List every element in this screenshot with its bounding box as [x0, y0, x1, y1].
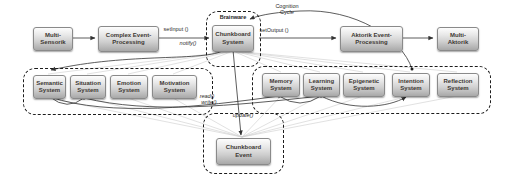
node-emotion-system: Emotion System — [110, 75, 148, 99]
node-situation-system: Situation System — [70, 75, 106, 99]
edge-label-write: write() — [201, 99, 216, 105]
edge-label-notify: notify() — [180, 40, 197, 46]
node-complex-event-processing: Complex Event- Processing — [98, 26, 159, 52]
node-semantic-system: Semantic System — [33, 75, 66, 99]
diagram-canvas: Brainware Multi- Sensorik Complex Event-… — [0, 0, 514, 184]
node-reflection-system: Reflection System — [437, 73, 479, 97]
node-multi-aktorik: Multi- Aktorik — [437, 27, 479, 51]
node-chunkboard-event: Chunkboard Event — [216, 138, 271, 165]
edge-notify — [51, 50, 224, 70]
node-aktorik-event-processing: Aktorik Event- Processing — [340, 26, 403, 52]
edge-label-cognition-cycle: Cognition Cycle — [275, 3, 298, 16]
node-multi-sensorik: Multi- Sensorik — [33, 27, 73, 51]
node-chunkboard-system: Chunkboard System — [212, 25, 254, 52]
node-intention-system: Intention System — [392, 73, 430, 97]
node-learning-system: Learning System — [303, 73, 340, 97]
edge-label-set-output: setOutput () — [259, 27, 288, 33]
brainware-label: Brainware — [220, 14, 247, 20]
node-motivation-system: Motivation System — [152, 75, 197, 99]
node-memory-system: Memory System — [262, 73, 300, 97]
node-epigenetic-system: Epigenetic System — [343, 73, 385, 97]
edge-label-set-input: setInput () — [164, 26, 189, 32]
edge-label-update: update() — [233, 112, 254, 118]
